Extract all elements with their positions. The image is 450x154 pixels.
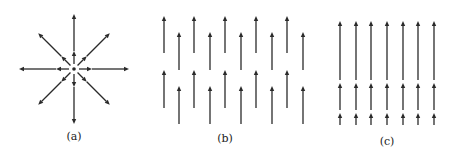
field-arrow-icon xyxy=(239,32,243,70)
field-arrow-icon xyxy=(208,86,212,124)
field-arrow-icon xyxy=(177,86,181,124)
outer-arrow-icon xyxy=(72,14,76,51)
field-arrow-icon xyxy=(432,21,436,80)
field-arrow-icon xyxy=(338,113,342,125)
field-arrow-icon xyxy=(354,83,358,110)
field-arrow-icon xyxy=(270,86,274,124)
field-arrow-icon xyxy=(239,86,243,124)
field-arrow-icon xyxy=(432,83,436,110)
field-arrow-icon xyxy=(369,21,373,80)
field-arrow-icon xyxy=(401,113,405,125)
field-arrow-icon xyxy=(192,16,196,53)
field-arrow-icon xyxy=(369,113,373,125)
field-arrow-icon xyxy=(162,16,166,53)
outer-arrow-icon xyxy=(87,33,110,56)
field-arrow-icon xyxy=(385,113,389,125)
panel-a-radial-field xyxy=(19,14,129,124)
outer-arrow-icon xyxy=(72,87,76,124)
vector-field-diagram: (a) (b) (c) xyxy=(0,0,450,154)
field-arrow-icon xyxy=(192,70,196,108)
outer-arrow-icon xyxy=(92,67,129,71)
panel-c-nonuniform-field xyxy=(338,21,436,125)
field-arrow-icon xyxy=(416,21,420,80)
field-arrow-icon xyxy=(177,32,181,70)
field-arrow-icon xyxy=(354,113,358,125)
field-arrow-icon xyxy=(285,16,289,53)
field-arrow-icon xyxy=(401,21,405,80)
inner-arrow-icon xyxy=(72,74,76,87)
field-arrow-icon xyxy=(254,16,258,53)
inner-arrow-icon xyxy=(79,67,92,71)
field-arrow-icon xyxy=(385,21,389,80)
field-arrow-icon xyxy=(369,83,373,110)
field-arrow-icon xyxy=(254,70,258,108)
inner-arrow-icon xyxy=(78,73,87,82)
field-arrow-icon xyxy=(208,32,212,70)
point-source-dot xyxy=(72,67,76,71)
field-arrow-icon xyxy=(223,16,227,53)
field-arrow-icon xyxy=(416,83,420,110)
field-arrow-icon xyxy=(385,83,389,110)
outer-arrow-icon xyxy=(38,33,61,56)
field-arrow-icon xyxy=(338,21,342,80)
panel-b-uniform-field xyxy=(162,16,305,124)
field-arrow-icon xyxy=(223,70,227,108)
field-arrow-icon xyxy=(162,70,166,108)
field-arrow-icon xyxy=(354,21,358,80)
panel-c-label: (c) xyxy=(380,135,395,148)
field-arrow-icon xyxy=(301,32,305,70)
field-arrow-icon xyxy=(338,83,342,110)
panel-a-label: (a) xyxy=(66,130,81,143)
panel-b-label: (b) xyxy=(217,132,233,145)
inner-arrow-icon xyxy=(78,56,87,65)
outer-arrow-icon xyxy=(38,82,61,105)
field-arrow-icon xyxy=(416,113,420,125)
inner-arrow-icon xyxy=(56,67,69,71)
inner-arrow-icon xyxy=(61,56,70,65)
field-arrow-icon xyxy=(301,86,305,124)
outer-arrow-icon xyxy=(87,82,110,105)
field-arrow-icon xyxy=(401,83,405,110)
field-arrow-icon xyxy=(432,113,436,125)
field-arrow-icon xyxy=(270,32,274,70)
outer-arrow-icon xyxy=(19,67,56,71)
inner-arrow-icon xyxy=(61,73,70,82)
inner-arrow-icon xyxy=(72,51,76,64)
field-arrow-icon xyxy=(285,70,289,108)
